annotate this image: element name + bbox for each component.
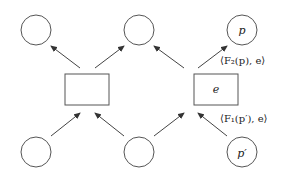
- edge-label-bottom: ⟨F₁(p′), e⟩: [220, 113, 268, 124]
- petri-net-diagram: p e p′ ⟨F₂(p), e⟩ ⟨F₁(p′), e⟩: [0, 0, 288, 179]
- transition-left: [65, 74, 109, 105]
- arc-bottom-middle-to-left: [95, 113, 124, 136]
- arc-left-to-top-left: [51, 46, 80, 68]
- arc-bottom-left-to-left: [51, 113, 80, 136]
- place-top-middle: [124, 15, 154, 45]
- arc-right-to-top-middle: [154, 46, 184, 68]
- label-p-prime: p′: [237, 147, 247, 160]
- place-bottom-left: [21, 137, 51, 167]
- edge-label-top: ⟨F₂(p), e⟩: [220, 55, 265, 66]
- label-p: p: [238, 24, 245, 37]
- arc-bottom-middle-to-right: [154, 113, 184, 136]
- label-e: e: [213, 83, 220, 96]
- place-bottom-middle: [124, 137, 154, 167]
- place-top-left: [21, 15, 51, 45]
- arc-left-to-top-middle: [95, 46, 124, 68]
